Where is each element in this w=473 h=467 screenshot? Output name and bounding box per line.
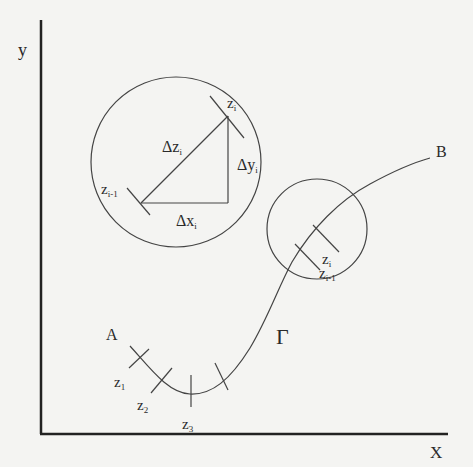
tick-z2 xyxy=(151,368,172,393)
curve-gamma xyxy=(130,158,430,394)
z1-label: z1 xyxy=(114,374,125,392)
gamma-label: Γ xyxy=(276,324,289,349)
zim1-label: zi-1 xyxy=(101,181,118,199)
point-b-label: B xyxy=(436,143,447,160)
x-axis-label: X xyxy=(430,443,442,462)
z2-label: z2 xyxy=(137,397,148,415)
z3-label: z3 xyxy=(182,416,194,434)
tick-small-zim1 xyxy=(295,244,320,270)
line-integral-diagram: y X Δzi Δxi Δyi zi zi-1 A B Γ zi zi-1 z1… xyxy=(0,0,473,467)
dy-label: Δyi xyxy=(237,156,258,175)
dz-label: Δzi xyxy=(162,138,182,157)
dz-hypotenuse xyxy=(141,116,228,203)
tick-zim1 xyxy=(127,188,150,215)
small-zim1-label: zi-1 xyxy=(319,265,336,283)
y-axis-label: y xyxy=(18,40,27,60)
zi-label: zi xyxy=(227,95,237,113)
tick-z1 xyxy=(129,349,149,368)
tick-small-zi xyxy=(313,225,339,252)
dx-label: Δxi xyxy=(176,212,197,231)
point-a-label: A xyxy=(106,326,118,343)
